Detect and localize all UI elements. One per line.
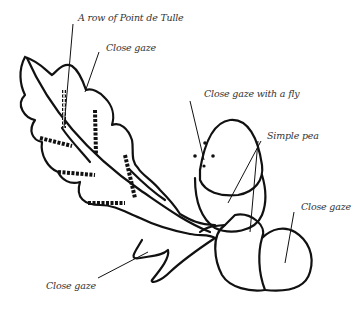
acorn-top-cap-body xyxy=(200,120,262,196)
label-close-gaze-with-fly: Close gaze with a fly xyxy=(204,88,299,99)
label-close-gaze-leaf: Close gaze xyxy=(106,42,156,53)
oak-leaf-acorn-drawing xyxy=(0,0,359,312)
oak-leaf-outline xyxy=(20,57,215,234)
embroidery-diagram: A row of Point de Tulle Close gaze Close… xyxy=(0,0,359,312)
leaf-midrib xyxy=(27,58,210,232)
acorn-bottom-nut xyxy=(262,229,312,291)
label-simple-pea: Simple pea xyxy=(267,130,319,141)
label-row-point-de-tulle: A row of Point de Tulle xyxy=(78,12,184,23)
stem-lobe xyxy=(134,238,215,282)
acorn-top-cup xyxy=(195,175,265,232)
label-close-gaze-stem: Close gaze xyxy=(46,280,96,291)
label-close-gaze-acorn: Close gaze xyxy=(301,201,351,212)
